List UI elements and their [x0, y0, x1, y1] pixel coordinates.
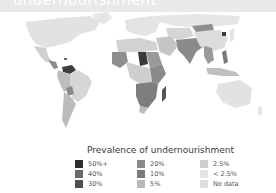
- region-middle-east: [156, 36, 178, 56]
- legend-item-10: 10%: [137, 170, 164, 178]
- legend: Prevalence of undernourishment 50%+ 40% …: [0, 142, 276, 193]
- region-brazil: [70, 70, 92, 102]
- region-southern-africa: [136, 82, 158, 108]
- legend-item-30: 30%: [75, 180, 102, 188]
- legend-swatch: [137, 170, 145, 178]
- legend-swatch: [200, 170, 208, 178]
- legend-item-50-plus: 50%+: [75, 160, 108, 168]
- legend-label: 5%: [150, 180, 160, 188]
- region-north-africa: [116, 38, 158, 52]
- legend-label: 30%: [88, 180, 102, 188]
- legend-swatch: [75, 180, 83, 188]
- region-japan: [230, 28, 234, 42]
- legend-label: No data: [213, 180, 239, 188]
- region-haiti: [64, 58, 67, 60]
- region-north-america: [25, 16, 100, 48]
- legend-swatch: [75, 170, 83, 178]
- region-indonesia: [206, 68, 240, 76]
- legend-swatch: [200, 180, 208, 188]
- legend-title: Prevalence of undernourishment: [87, 145, 234, 155]
- legend-swatch: [137, 160, 145, 168]
- region-new-zealand: [258, 106, 262, 116]
- legend-label: 2.5%: [213, 160, 230, 168]
- region-europe: [125, 16, 160, 36]
- legend-label: 10%: [150, 170, 164, 178]
- legend-item-5: 5%: [137, 180, 160, 188]
- region-madagascar: [162, 86, 166, 102]
- legend-swatch: [137, 180, 145, 188]
- legend-item-40: 40%: [75, 170, 102, 178]
- region-north-korea: [222, 32, 226, 36]
- legend-label: 40%: [88, 170, 102, 178]
- legend-swatch: [200, 160, 208, 168]
- legend-label: < 2.5%: [213, 170, 237, 178]
- region-central-america: [48, 60, 58, 69]
- region-mexico: [34, 46, 52, 62]
- legend-item-less-2-5: < 2.5%: [200, 170, 237, 178]
- legend-swatch: [75, 160, 83, 168]
- region-australia: [216, 80, 252, 108]
- legend-label: 50%+: [88, 160, 108, 168]
- region-philippines: [222, 50, 228, 64]
- map-title: undernourishment: [13, 0, 157, 9]
- region-chad: [138, 52, 148, 66]
- world-map: [0, 12, 276, 142]
- title-banner: undernourishment: [0, 0, 276, 12]
- legend-item-2-5: 2.5%: [200, 160, 230, 168]
- region-central-africa: [126, 62, 152, 84]
- legend-item-20: 20%: [137, 160, 164, 168]
- legend-item-no-data: No data: [200, 180, 239, 188]
- legend-label: 20%: [150, 160, 164, 168]
- region-west-africa: [112, 52, 128, 68]
